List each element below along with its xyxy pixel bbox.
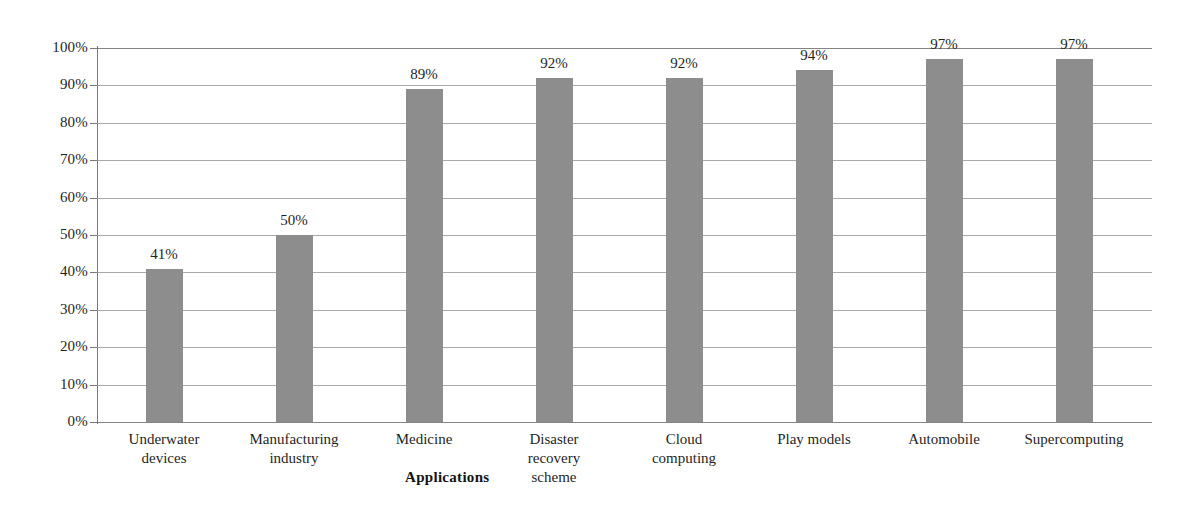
bar-value-label: 92% (639, 56, 729, 71)
bar (536, 78, 573, 422)
x-axis-category-label: Disasterrecoveryscheme (492, 430, 616, 487)
y-axis-tick-label: 60% (60, 190, 88, 205)
x-axis-category-label: Play models (752, 430, 876, 449)
x-axis-category-label: Medicine (362, 430, 486, 449)
x-axis-category-label: Underwaterdevices (102, 430, 226, 468)
gridline (97, 422, 1152, 423)
y-axis-tick-label: 10% (60, 377, 88, 392)
x-axis-category-label: Manufacturingindustry (232, 430, 356, 468)
x-axis-category-label: Supercomputing (1012, 430, 1136, 449)
x-axis-category-label-line: Automobile (882, 430, 1006, 449)
x-axis-category-label-line: devices (102, 449, 226, 468)
x-axis-category-label: Cloudcomputing (622, 430, 746, 468)
bar (406, 89, 443, 422)
bar (146, 269, 183, 422)
bar-value-label: 89% (379, 67, 469, 82)
bar-value-label: 94% (769, 48, 859, 63)
y-axis-tick-label: 70% (60, 152, 88, 167)
x-axis-category-label-line: Medicine (362, 430, 486, 449)
y-axis-tick-label: 50% (60, 227, 88, 242)
y-axis-tick (90, 385, 97, 386)
y-axis-tick (90, 85, 97, 86)
bar-value-label: 92% (509, 56, 599, 71)
x-axis-category-label-line: Play models (752, 430, 876, 449)
y-axis-tick-label: 0% (68, 414, 88, 429)
bar-chart: 0%10%20%30%40%50%60%70%80%90%100% 41%50%… (0, 0, 1183, 518)
y-axis-tick (90, 272, 97, 273)
x-axis-category-label-line: Underwater (102, 430, 226, 449)
y-axis-tick (90, 160, 97, 161)
x-axis-category-label-line: Cloud (622, 430, 746, 449)
y-axis-tick-label: 40% (60, 264, 88, 279)
x-axis-category-label-line: scheme (492, 468, 616, 487)
x-axis-title: Applications (405, 470, 489, 485)
y-axis-tick-label: 80% (60, 115, 88, 130)
x-axis-category-label-line: recovery (492, 449, 616, 468)
bar (276, 235, 313, 422)
x-axis-category-label-line: Manufacturing (232, 430, 356, 449)
y-axis-tick (90, 310, 97, 311)
x-axis-category-label-line: Disaster (492, 430, 616, 449)
y-axis-tick-label: 90% (60, 77, 88, 92)
x-axis-category-label-line: Supercomputing (1012, 430, 1136, 449)
y-axis-tick-label: 100% (52, 40, 88, 55)
bar (796, 70, 833, 422)
bar-value-label: 97% (899, 37, 989, 52)
bar (926, 59, 963, 422)
bar (1056, 59, 1093, 422)
bar-value-label: 41% (119, 247, 209, 262)
y-axis-tick (90, 48, 97, 49)
y-axis-tick (90, 422, 97, 423)
bar-value-label: 50% (249, 213, 339, 228)
y-axis-tick (90, 198, 97, 199)
y-axis-tick-label: 20% (60, 339, 88, 354)
y-axis-tick (90, 235, 97, 236)
x-axis-category-label-line: industry (232, 449, 356, 468)
y-axis-tick-label: 30% (60, 302, 88, 317)
y-axis-tick (90, 123, 97, 124)
bar-value-label: 97% (1029, 37, 1119, 52)
x-axis-category-label-line: computing (622, 449, 746, 468)
y-axis-tick (90, 347, 97, 348)
plot-area (97, 48, 1152, 422)
x-axis-category-label: Automobile (882, 430, 1006, 449)
bar (666, 78, 703, 422)
